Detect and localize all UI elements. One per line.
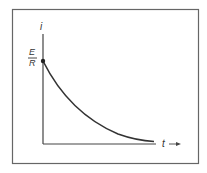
fraction-numerator: E: [29, 48, 35, 57]
decay-diagram: [0, 0, 207, 173]
decay-curve: [43, 61, 154, 142]
time-arrow-icon: [176, 142, 181, 146]
figure-frame: [13, 10, 199, 164]
x-axis-label: t: [162, 139, 165, 149]
fraction-denominator: R: [29, 59, 36, 68]
y-axis-label: i: [40, 22, 42, 32]
initial-point: [41, 59, 45, 63]
